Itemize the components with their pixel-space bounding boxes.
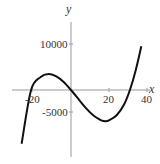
x-tick-label: 20	[103, 93, 115, 105]
y-tick-label: 10000	[40, 38, 68, 50]
plot-area: y x -20 20 40 10000 -5000	[0, 0, 160, 164]
x-tick-label: 40	[141, 93, 153, 105]
y-axis-label: y	[65, 2, 72, 16]
x-tick-label: -20	[25, 93, 40, 105]
y-tick-label: -5000	[42, 106, 68, 118]
chart: y x -20 20 40 10000 -5000	[0, 0, 160, 164]
